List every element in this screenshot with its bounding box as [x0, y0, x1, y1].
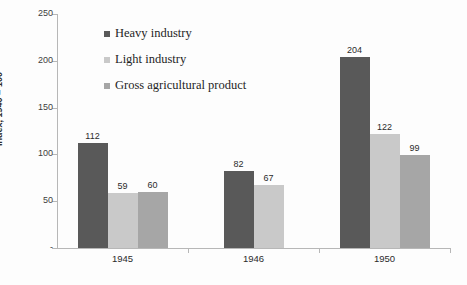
y-tick-label: 50 — [43, 195, 53, 206]
bar-value-label: 122 — [377, 122, 392, 132]
legend-swatch-icon — [104, 57, 110, 63]
x-axis-category-label: 1946 — [188, 253, 319, 264]
legend-item: Light industry — [104, 53, 246, 66]
bar: 122 — [370, 134, 400, 248]
bar: 99 — [400, 155, 430, 248]
bar-value-label: 59 — [117, 181, 127, 191]
bar: 204 — [340, 57, 370, 248]
legend-label: Heavy industry — [115, 27, 192, 40]
legend-label: Gross agricultural product — [115, 79, 246, 92]
y-tick-label: 150 — [38, 102, 53, 113]
bar-value-label: 204 — [347, 45, 362, 55]
x-axis-end-tick — [450, 248, 451, 253]
x-axis-separator-tick — [188, 248, 189, 253]
bar-value-label: 99 — [409, 143, 419, 153]
y-tick-label: 100 — [38, 148, 53, 159]
y-tick-label: - — [50, 242, 53, 253]
bar-value-label: 82 — [233, 159, 243, 169]
bar-value-label: 60 — [147, 180, 157, 190]
bar: 59 — [108, 193, 138, 248]
legend-label: Light industry — [115, 53, 186, 66]
bar: 82 — [224, 171, 254, 248]
bar-group: 20412299 — [319, 14, 450, 248]
bar-value-label: 112 — [85, 131, 99, 141]
bar: 67 — [254, 185, 284, 248]
bar: 112 — [78, 143, 108, 248]
legend-item: Gross agricultural product — [104, 79, 246, 92]
legend-swatch-icon — [104, 31, 110, 37]
bar: 60 — [138, 192, 168, 248]
legend-swatch-icon — [104, 83, 110, 89]
y-tick-label: 200 — [38, 55, 53, 66]
bar-chart: Index, 1940 = 100 25020015010050- 112596… — [0, 0, 467, 285]
y-axis-title: Index, 1940 = 100 — [0, 72, 4, 146]
x-axis-category-label: 1950 — [319, 253, 450, 264]
y-tick-label: 250 — [38, 8, 53, 19]
chart-legend: Heavy industryLight industryGross agricu… — [104, 27, 246, 105]
x-axis-line — [57, 248, 450, 249]
bar-value-label: 67 — [263, 173, 273, 183]
x-axis-category-label: 1945 — [57, 253, 188, 264]
legend-item: Heavy industry — [104, 27, 246, 40]
x-axis-separator-tick — [319, 248, 320, 253]
